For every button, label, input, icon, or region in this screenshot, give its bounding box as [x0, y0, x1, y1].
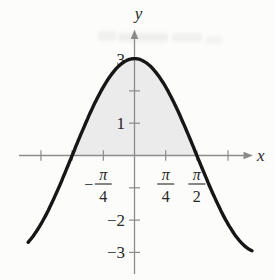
x-axis-arrow	[244, 152, 254, 160]
x-tick-label-sign: −	[84, 176, 93, 193]
x-tick-label-numerator: π	[99, 166, 108, 183]
print-through-smudge	[118, 33, 168, 42]
x-axis-label: x	[256, 146, 265, 165]
x-tick-label-denominator: 4	[99, 188, 107, 205]
figure-container: −π4π4π231−2−3xy	[0, 0, 275, 280]
graph-canvas: −π4π4π231−2−3xy	[0, 0, 275, 280]
print-through-artifact	[98, 31, 222, 44]
print-through-smudge	[98, 31, 116, 41]
y-axis-label: y	[133, 4, 143, 23]
print-through-smudge	[172, 33, 202, 42]
x-tick-label-numerator: π	[162, 166, 171, 183]
y-tick-label: −2	[107, 211, 125, 230]
y-tick-label: −3	[107, 243, 125, 262]
y-tick-label: 1	[117, 114, 126, 133]
print-through-smudge	[206, 36, 222, 44]
x-tick-label-denominator: 4	[162, 188, 170, 205]
x-tick-label-denominator: 2	[193, 188, 201, 205]
